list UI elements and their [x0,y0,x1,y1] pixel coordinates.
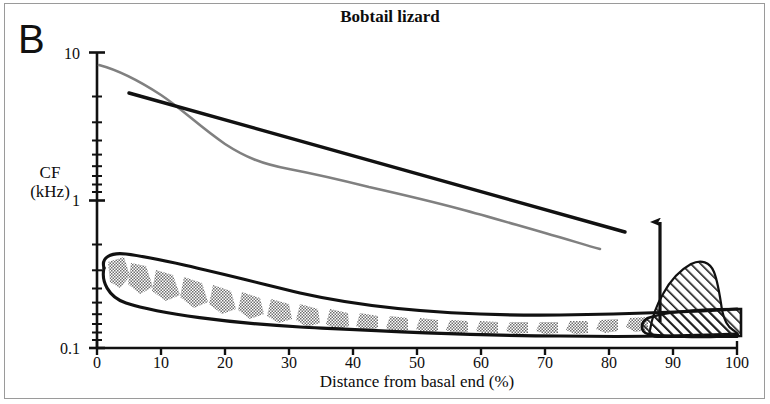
series-gray-curve [99,65,600,249]
hatched-region [642,262,741,337]
figure-panel: B Bobtail lizard CF (kHz) Distance from … [0,0,770,404]
plot-area [0,0,770,404]
series-black-line [129,93,625,232]
